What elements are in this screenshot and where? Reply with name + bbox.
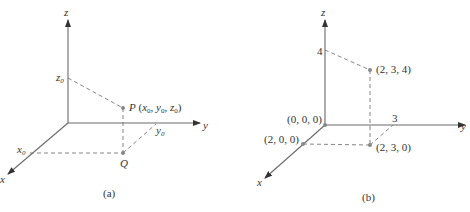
x-axis-label: x	[256, 176, 262, 188]
x-axis-label: x	[0, 173, 5, 185]
point-2-3-4	[368, 68, 372, 72]
z-axis-label: z	[63, 6, 69, 18]
point-P	[121, 106, 125, 110]
z-axis-label: z	[320, 6, 326, 18]
point-Q	[121, 151, 125, 155]
point-2-0-0	[301, 142, 305, 146]
z0-to-P-dash	[68, 78, 123, 108]
origin-label: (0, 0, 0)	[287, 113, 322, 126]
z4-to-top-dash	[325, 50, 370, 70]
z-tick-4: 4	[317, 45, 323, 57]
point-2-3-0	[368, 143, 372, 147]
x0-label: x0	[16, 143, 26, 157]
top-point-label: (2, 3, 4)	[376, 63, 411, 76]
y-axis-label: y	[460, 120, 466, 132]
Q-label: Q	[120, 157, 128, 169]
Q-to-y0-dash	[123, 124, 156, 153]
caption-b: (b)	[362, 191, 375, 204]
y-tick-3: 3	[392, 112, 398, 124]
panel-b: z y x 4 3 (2, 3, 4) (0, 0, 0) (2, 0, 0) …	[256, 6, 466, 204]
y-axis-label: y	[202, 119, 208, 131]
x2-to-base-dash	[303, 144, 370, 145]
base-point-label: (2, 3, 0)	[376, 141, 411, 154]
caption-a: (a)	[103, 187, 116, 200]
coordinate-diagram: z y x z0 x0 y0 P (x0, y0, z0) Q (a) z y …	[0, 0, 470, 212]
panel-a: z y x z0 x0 y0 P (x0, y0, z0) Q (a)	[0, 6, 208, 200]
P-label: P (x0, y0, z0)	[128, 101, 182, 115]
z0-label: z0	[55, 71, 64, 85]
point-origin	[323, 123, 327, 127]
y0-label: y0	[155, 124, 165, 138]
x-point-label: (2, 0, 0)	[264, 133, 299, 146]
